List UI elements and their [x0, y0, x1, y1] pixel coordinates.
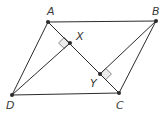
segment-by — [100, 21, 156, 74]
point-d — [10, 93, 14, 97]
label-d: D — [6, 99, 14, 112]
point-x — [68, 41, 72, 45]
point-a — [46, 20, 50, 24]
point-c — [117, 91, 121, 95]
segment-dx — [12, 43, 70, 95]
label-a: A — [46, 5, 55, 18]
segment-bc — [119, 21, 156, 93]
segment-cd — [12, 93, 119, 95]
segment-ab — [48, 21, 156, 22]
label-b: B — [152, 5, 160, 18]
parallelogram-diagram: A B C D X Y — [0, 0, 165, 119]
point-y — [98, 72, 102, 76]
label-c: C — [116, 99, 124, 112]
label-x: X — [75, 30, 84, 43]
label-y: Y — [90, 77, 98, 90]
segment-da — [12, 22, 48, 95]
point-b — [154, 19, 158, 23]
